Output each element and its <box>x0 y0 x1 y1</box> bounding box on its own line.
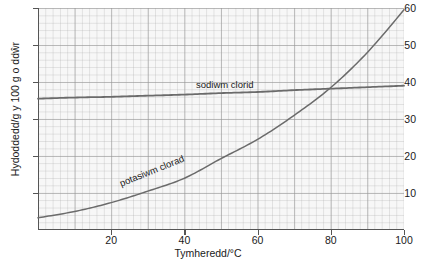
series-line-potasiwm-clorad <box>38 10 404 218</box>
series-label-sodiwm-clorid: sodiwm clorid <box>196 79 254 90</box>
